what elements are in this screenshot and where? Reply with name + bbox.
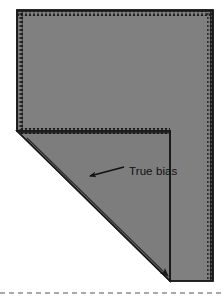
pinked-edge-top: [17, 10, 213, 16]
fabric-fold-figure: True bias: [0, 0, 224, 304]
pinked-edge-right: [207, 10, 213, 281]
figure-canvas: True bias: [0, 0, 224, 304]
true-bias-label: True bias: [129, 165, 178, 177]
pinked-edge-left: [17, 10, 23, 131]
